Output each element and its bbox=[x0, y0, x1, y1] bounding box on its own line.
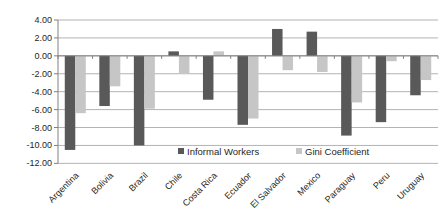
legend: Informal WorkersGini Coefficient bbox=[178, 146, 370, 157]
legend-label-gini-coefficient: Gini Coefficient bbox=[305, 146, 370, 157]
bar-gini-coefficient-brazil bbox=[144, 56, 155, 109]
bar-gini-coefficient-uruguay bbox=[421, 56, 432, 80]
bar-gini-coefficient-mexico bbox=[317, 56, 328, 72]
legend-label-informal-workers: Informal Workers bbox=[187, 146, 259, 157]
legend-swatch-gini-coefficient bbox=[296, 148, 302, 154]
y-tick-label: -6.00 bbox=[31, 105, 52, 115]
y-tick-label: -12.00 bbox=[26, 158, 52, 168]
bar-informal-workers-ecuador bbox=[238, 56, 249, 125]
x-category-label-uruguay: Uruguay bbox=[395, 170, 426, 201]
x-axis-labels: ArgentinaBoliviaBrazilChileCosta RicaEcu… bbox=[46, 170, 426, 210]
y-tick-label: 4.00 bbox=[34, 15, 52, 25]
bar-gini-coefficient-argentina bbox=[75, 56, 86, 113]
y-tick-label: 0.00 bbox=[34, 51, 52, 61]
bar-gini-coefficient-costa-rica bbox=[213, 51, 224, 55]
bar-informal-workers-mexico bbox=[307, 32, 318, 56]
y-tick-label: -2.00 bbox=[31, 69, 52, 79]
bar-informal-workers-costa-rica bbox=[203, 56, 214, 100]
bar-informal-workers-argentina bbox=[65, 56, 76, 150]
y-tick-label: -10.00 bbox=[26, 140, 52, 150]
bar-informal-workers-paraguay bbox=[341, 56, 352, 136]
bar-informal-workers-chile bbox=[168, 51, 179, 55]
x-category-label-argentina: Argentina bbox=[46, 170, 80, 204]
bar-gini-coefficient-el-salvador bbox=[283, 56, 294, 70]
bars-group bbox=[65, 29, 431, 150]
x-category-label-ecuador: Ecuador bbox=[223, 170, 254, 201]
y-axis-labels: 4.002.000.00-2.00-4.00-6.00-8.00-10.00-1… bbox=[26, 15, 52, 168]
bar-gini-coefficient-peru bbox=[386, 56, 397, 61]
x-category-label-mexico: Mexico bbox=[295, 170, 322, 197]
x-category-label-el-salvador: El Salvador bbox=[248, 170, 288, 210]
bar-gini-coefficient-chile bbox=[179, 56, 190, 74]
y-tick-label: 2.00 bbox=[34, 33, 52, 43]
bar-gini-coefficient-ecuador bbox=[248, 56, 259, 119]
x-category-label-bolivia: Bolivia bbox=[89, 170, 115, 196]
bar-informal-workers-peru bbox=[376, 56, 387, 122]
bar-informal-workers-el-salvador bbox=[272, 29, 283, 56]
chart-canvas: 4.002.000.00-2.00-4.00-6.00-8.00-10.00-1… bbox=[0, 0, 443, 222]
x-category-label-brazil: Brazil bbox=[127, 170, 150, 193]
y-tick-label: -8.00 bbox=[31, 123, 52, 133]
bar-gini-coefficient-bolivia bbox=[110, 56, 121, 86]
x-category-label-paraguay: Paraguay bbox=[323, 170, 358, 205]
bar-informal-workers-uruguay bbox=[410, 56, 421, 95]
bar-informal-workers-brazil bbox=[134, 56, 145, 146]
y-tick-label: -4.00 bbox=[31, 87, 52, 97]
legend-swatch-informal-workers bbox=[178, 148, 184, 154]
bar-informal-workers-bolivia bbox=[99, 56, 110, 106]
bar-gini-coefficient-paraguay bbox=[352, 56, 363, 103]
x-category-label-chile: Chile bbox=[163, 170, 185, 192]
x-category-label-costa-rica: Costa Rica bbox=[181, 170, 219, 208]
bar-chart: 4.002.000.00-2.00-4.00-6.00-8.00-10.00-1… bbox=[0, 0, 443, 222]
x-category-label-peru: Peru bbox=[371, 170, 392, 191]
